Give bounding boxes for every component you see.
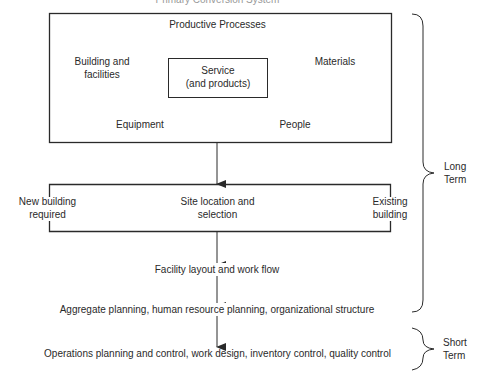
long-term-line-2: Term	[444, 173, 466, 186]
long-term-label: Long Term	[444, 160, 466, 186]
long-term-line-1: Long	[444, 160, 466, 173]
materials-label: Materials	[305, 55, 365, 68]
equipment-label: Equipment	[110, 118, 170, 131]
new-building-line-1: New building	[10, 195, 85, 208]
productive-processes-heading: Productive Processes	[150, 18, 285, 31]
step-facility-layout: Facility layout and work flow	[117, 263, 317, 276]
short-term-label: Short Term	[443, 336, 467, 362]
building-line-1: Building and	[62, 55, 142, 68]
service-line-1: Service	[168, 64, 268, 77]
service-line-2: (and products)	[168, 77, 268, 90]
diagram-title: Primary Conversion System	[150, 0, 285, 6]
site-location-label: Site location and selection	[165, 195, 270, 221]
long-term-brace	[412, 14, 434, 312]
building-line-2: facilities	[62, 68, 142, 81]
new-building-label: New building required	[10, 195, 85, 221]
site-location-line-1: Site location and	[165, 195, 270, 208]
people-label: People	[270, 118, 320, 131]
service-label: Service (and products)	[168, 64, 268, 90]
short-term-line-1: Short	[443, 336, 467, 349]
step-operations-planning: Operations planning and control, work de…	[30, 347, 405, 360]
new-building-line-2: required	[10, 208, 85, 221]
existing-building-line-1: Existing	[365, 195, 415, 208]
building-facilities-label: Building and facilities	[62, 55, 142, 81]
short-term-line-2: Term	[443, 349, 467, 362]
existing-building-label: Existing building	[365, 195, 415, 221]
existing-building-line-2: building	[365, 208, 415, 221]
site-location-line-2: selection	[165, 208, 270, 221]
short-term-brace	[412, 328, 434, 370]
step-aggregate-planning: Aggregate planning, human resource plann…	[50, 303, 384, 316]
